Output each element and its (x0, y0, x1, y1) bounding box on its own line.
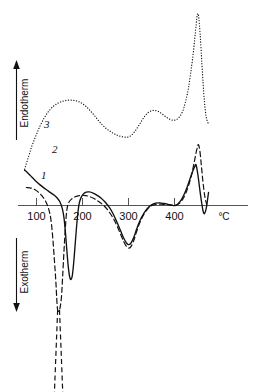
x-tick-label-300: 300 (119, 210, 137, 222)
x-axis-unit-label: °C (218, 211, 229, 222)
x-tick-label-100: 100 (27, 210, 45, 222)
curve-1-offscale-leg-right (60, 310, 63, 392)
exotherm-arrow-head-icon (13, 303, 20, 312)
curve-1-offscale-leg-left (54, 310, 57, 392)
curve-label-2: 2 (52, 143, 58, 155)
x-axis-group (18, 198, 248, 206)
dta-chart-plot: 100 200 300 400 °C Endotherm Exotherm 3 (0, 0, 260, 392)
curve-label-1: 1 (41, 169, 47, 181)
endotherm-axis-label: Endotherm (19, 79, 30, 128)
x-tick-label-400: 400 (165, 210, 183, 222)
curve-label-3: 3 (43, 118, 50, 130)
endotherm-axis-indicator: Endotherm (13, 60, 30, 140)
exotherm-axis-indicator: Exotherm (13, 238, 30, 312)
curve-1-dashed (26, 144, 206, 311)
dta-chart-figure: 100 200 300 400 °C Endotherm Exotherm 3 (0, 0, 260, 392)
exotherm-axis-label: Exotherm (19, 251, 30, 294)
x-tick-label-200: 200 (73, 210, 91, 222)
curve-labels-group: 3 2 1 (41, 118, 58, 181)
endotherm-arrow-head-icon (13, 60, 20, 69)
curves-group (25, 13, 209, 392)
